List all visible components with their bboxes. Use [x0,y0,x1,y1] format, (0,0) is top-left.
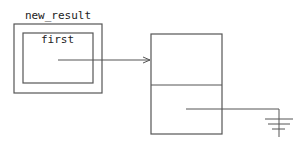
null-pointer-line [186,109,279,137]
new-result-label: new_result [25,9,91,22]
first-label: first [41,33,74,46]
pointer-diagram: new_result first [0,0,304,142]
target-node-box [151,34,222,134]
